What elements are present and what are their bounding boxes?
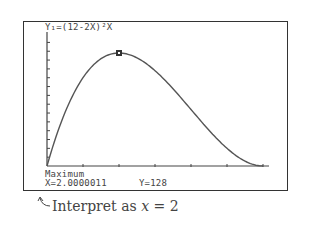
equation-label: Y₁=(12-2X)²X (45, 23, 112, 32)
x-readout: X=2.0000011 (45, 179, 107, 188)
function-curve (47, 53, 263, 166)
calculator-screen: Y₁=(12-2X)²X Maximum X=2.0000011 Y=128 (23, 21, 288, 191)
maximum-marker-icon (116, 50, 122, 56)
graph-plot (24, 22, 289, 192)
y-readout: Y=128 (139, 179, 167, 188)
caption: Interpret as x = 2 (52, 198, 179, 214)
